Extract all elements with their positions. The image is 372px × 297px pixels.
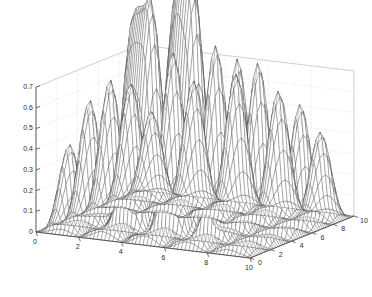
- x-axis-tick-label-1: 2: [76, 243, 80, 250]
- y-axis-tick-label-0: 0: [258, 259, 262, 266]
- y-axis-tick-label-3: 6: [320, 233, 324, 240]
- z-axis-tick-label-7: 0.7: [23, 83, 33, 90]
- y-axis-tick-label-4: 8: [341, 225, 345, 232]
- z-axis-tick-label-4: 0.4: [23, 145, 33, 152]
- x-axis-tick-label-0: 0: [33, 238, 37, 245]
- z-axis-tick-label-2: 0.2: [23, 186, 33, 193]
- z-axis-tick-label-0: 0: [29, 228, 33, 235]
- x-axis-tick-label-3: 6: [161, 253, 165, 260]
- z-axis-tick-label-6: 0.6: [23, 103, 33, 110]
- y-axis-tick-label-1: 2: [279, 250, 283, 257]
- x-axis-tick-label-4: 8: [204, 258, 208, 265]
- x-axis-tick-label-2: 4: [119, 248, 123, 255]
- surface-mesh: [36, 0, 354, 258]
- plot-canvas: [0, 0, 372, 297]
- y-axis-tick-label-2: 4: [300, 242, 304, 249]
- z-axis-tick-label-1: 0.1: [23, 207, 33, 214]
- figure-3d-surface-plot: 00.10.20.30.40.50.60.702468100246810: [0, 0, 372, 297]
- y-axis-tick-label-5: 10: [360, 217, 368, 224]
- z-axis-tick-label-5: 0.5: [23, 124, 33, 131]
- z-axis-tick-label-3: 0.3: [23, 165, 33, 172]
- x-axis-tick-label-5: 10: [245, 264, 253, 271]
